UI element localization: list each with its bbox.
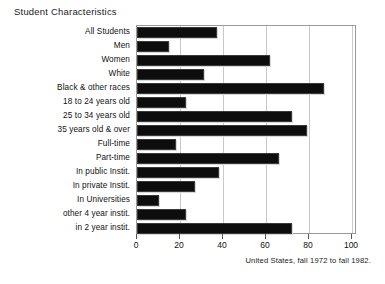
x-axis-tick-label: 20 (174, 240, 183, 250)
x-axis-tick-label: 0 (134, 240, 139, 250)
category-label: other 4 year instit. (0, 209, 130, 218)
bar (137, 167, 219, 178)
bar (137, 139, 176, 150)
gridline (309, 26, 310, 233)
category-label: Men (0, 41, 130, 50)
category-label: 18 to 24 years old (0, 97, 130, 106)
bar (137, 69, 204, 80)
category-axis-labels: All StudentsMenWomenWhiteBlack & other r… (0, 25, 130, 234)
x-axis-tick (179, 234, 180, 239)
bar (137, 83, 324, 94)
bar-chart: Student Characteristics All StudentsMenW… (0, 0, 385, 284)
gridline (352, 26, 353, 233)
category-label: In public Instit. (0, 167, 130, 176)
bar (137, 195, 159, 206)
x-axis-tick-label: 60 (260, 240, 269, 250)
bar (137, 209, 186, 220)
bar (137, 27, 217, 38)
bar (137, 125, 307, 136)
category-label: In Universities (0, 195, 130, 204)
category-label: Women (0, 55, 130, 64)
category-label: 25 to 34 years old (0, 111, 130, 120)
x-axis-tick-label: 80 (303, 240, 312, 250)
chart-footnote: United States, fall 1972 to fall 1982. (245, 256, 371, 265)
x-axis-tick-label: 100 (344, 240, 358, 250)
bar (137, 97, 186, 108)
category-label: Full-time (0, 139, 130, 148)
category-label: White (0, 69, 130, 78)
bar (137, 41, 169, 52)
category-label: Part-time (0, 153, 130, 162)
x-axis-tick (351, 234, 352, 239)
category-label: Black & other races (0, 83, 130, 92)
plot-area (136, 25, 356, 234)
bar (137, 111, 292, 122)
bar (137, 153, 279, 164)
bar (137, 223, 292, 234)
x-axis-tick (308, 234, 309, 239)
category-label: in 2 year instit. (0, 223, 130, 232)
x-axis-tick (136, 234, 137, 239)
category-label: 35 years old & over (0, 125, 130, 134)
bar (137, 181, 195, 192)
x-axis-tick (265, 234, 266, 239)
bar (137, 55, 270, 66)
category-label: All Students (0, 27, 130, 36)
chart-title: Student Characteristics (14, 6, 117, 17)
category-label: In private Instit. (0, 181, 130, 190)
x-axis-tick-label: 40 (217, 240, 226, 250)
x-axis-tick (222, 234, 223, 239)
